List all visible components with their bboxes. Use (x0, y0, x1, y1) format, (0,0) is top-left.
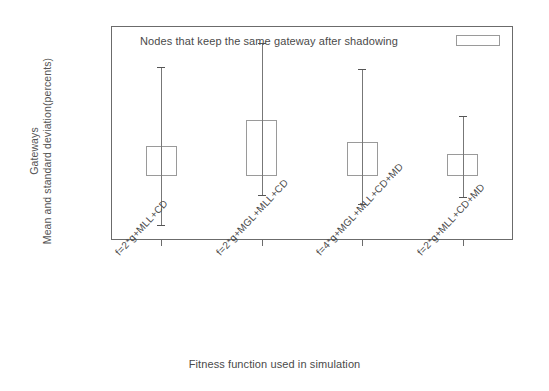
chart-figure: Gateways Mean and standard deviation(per… (0, 0, 549, 391)
error-bar-cap (157, 225, 165, 226)
error-bar (362, 69, 363, 204)
x-axis-tick-mark (161, 240, 162, 246)
error-bar (463, 116, 464, 197)
chart-legend: Nodes that keep the same gateway after s… (140, 31, 500, 50)
y-axis-title-line-1: Gateways (28, 41, 41, 261)
error-bar-cap (358, 69, 366, 70)
error-bar (262, 43, 263, 195)
legend-entry-label: Nodes that keep the same gateway after s… (140, 35, 398, 47)
y-axis-title-line-2: Mean and standard deviation(percents) (41, 41, 54, 261)
error-bar-cap (459, 116, 467, 117)
x-axis-tick-mark (463, 240, 464, 246)
error-bar-cap (157, 67, 165, 68)
x-axis-tick-mark (262, 240, 263, 246)
x-axis-title: Fitness function used in simulation (0, 358, 549, 370)
legend-key-swatch (456, 35, 500, 46)
x-axis-tick-mark (362, 240, 363, 246)
y-axis-title: Gateways Mean and standard deviation(per… (28, 41, 68, 261)
